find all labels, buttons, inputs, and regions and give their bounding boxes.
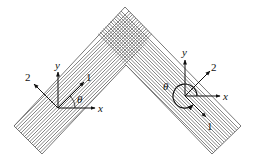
- left-x-label: x: [97, 102, 103, 114]
- right-y-label: y: [181, 46, 187, 58]
- right-axis1-label: 1: [207, 120, 213, 132]
- left-axis1-label: 1: [86, 71, 92, 83]
- left-theta-label: θ: [77, 93, 83, 105]
- right-axis2-label: 2: [211, 61, 217, 73]
- left-arm-fibers: [0, 0, 213, 161]
- left-y-label: y: [54, 59, 60, 71]
- laminate-diagram: x y 1 2 θ x y 2 1 θ: [0, 0, 252, 161]
- left-axis2-label: 2: [25, 71, 31, 83]
- right-theta-label: θ: [163, 80, 169, 92]
- right-x-label: x: [222, 90, 228, 102]
- right-axis-2: [185, 71, 210, 96]
- right-arm-fibers: [38, 0, 253, 160]
